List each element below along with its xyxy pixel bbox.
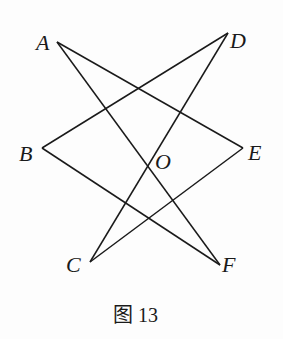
label-D: D [229,28,246,53]
label-B: B [19,141,32,166]
label-F: F [221,252,236,277]
geometry-figure: A D B E O C F 图 13 [0,0,283,339]
segment-AF [57,42,220,265]
segment-BF [42,148,220,265]
segment-DC [90,33,228,262]
figure-caption: 图 13 [113,304,158,326]
segments [42,33,243,265]
label-C: C [66,252,81,277]
point-labels: A D B E O C F [19,28,262,277]
segment-DB [42,33,228,148]
label-A: A [34,30,50,55]
label-E: E [247,140,262,165]
label-O: O [155,149,171,174]
segment-AE [57,42,243,148]
